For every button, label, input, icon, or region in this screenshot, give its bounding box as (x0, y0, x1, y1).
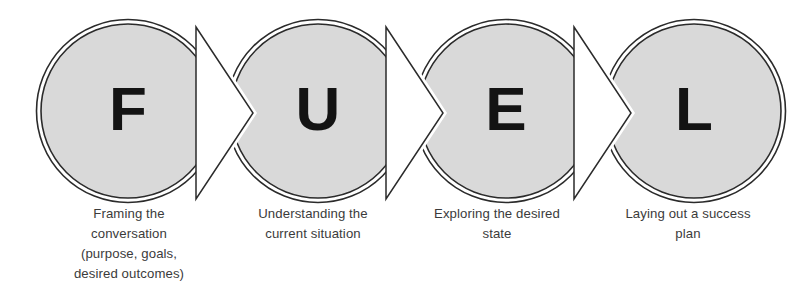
fuel-process-diagram: F U E L (0, 0, 802, 307)
caption-line: state (404, 224, 590, 244)
step-letter-e: E (485, 74, 526, 143)
step-circle-f: F (37, 20, 220, 203)
caption-layer: Framing the conversation (purpose, goals… (0, 204, 802, 307)
step-letter-u: U (296, 74, 341, 143)
caption-line: Laying out a success (592, 204, 784, 224)
step-letter-f: F (109, 74, 147, 143)
caption-line: conversation (38, 224, 220, 244)
caption-line: current situation (222, 224, 404, 244)
caption-line: desired outcomes) (38, 264, 220, 284)
diagram-stage: F U E L (0, 0, 802, 307)
caption-line: Understanding the (222, 204, 404, 224)
chevron-connector-f-to-u (196, 27, 253, 199)
step-letter-l: L (675, 74, 713, 143)
step-caption-e: Exploring the desired state (404, 204, 590, 244)
step-caption-u: Understanding the current situation (222, 204, 404, 244)
step-caption-l: Laying out a success plan (592, 204, 784, 244)
step-caption-f: Framing the conversation (purpose, goals… (38, 204, 220, 284)
caption-line: Framing the (38, 204, 220, 224)
caption-line: Exploring the desired (404, 204, 590, 224)
caption-line: (purpose, goals, (38, 244, 220, 264)
caption-line: plan (592, 224, 784, 244)
